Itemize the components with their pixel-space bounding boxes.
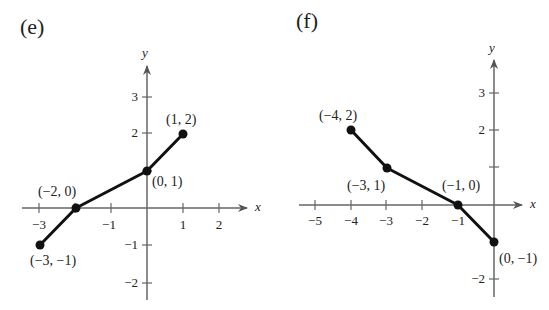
point-label: (−4, 2): [319, 108, 358, 124]
y-tick-label: −1: [124, 237, 138, 252]
x-tick-label: −2: [415, 213, 429, 228]
y-tick-label: 2: [132, 125, 139, 140]
y-axis-label: y: [487, 40, 495, 55]
y-tick-label: 3: [132, 89, 139, 104]
point-label: (0, −1): [499, 251, 538, 267]
x-axis-label: x: [529, 196, 536, 211]
y-tick-label: −2: [124, 275, 138, 290]
panel-f: (f) x y −5 −4 −3 −2 −1 3 2 −2: [296, 8, 538, 297]
point-label: (−3, 1): [347, 178, 386, 194]
y-axis-label: y: [140, 45, 148, 60]
y-tick-label: −2: [471, 271, 485, 286]
point-label: (1, 2): [166, 112, 197, 128]
point-label: (−2, 0): [38, 184, 77, 200]
y-tick-label: 2: [479, 122, 486, 137]
panel-f-title: (f): [296, 8, 318, 33]
figure: (e) x y −3 −1 1 2 3 2 −1 −2: [0, 0, 549, 310]
x-axis-label: x: [254, 199, 261, 214]
x-tick-label: −1: [451, 213, 465, 228]
x-tick-label: 2: [216, 217, 223, 232]
x-tick-label: −5: [308, 213, 322, 228]
y-tick-label: 3: [479, 85, 486, 100]
x-tick-label: −3: [379, 213, 393, 228]
x-tick-label: 1: [180, 217, 187, 232]
x-tick-label: −3: [32, 217, 46, 232]
x-tick-label: −4: [344, 213, 358, 228]
panel-e-title: (e): [20, 14, 44, 39]
point-label: (−1, 0): [442, 178, 481, 194]
x-tick-label: −1: [102, 217, 116, 232]
point-label: (0, 1): [152, 174, 183, 190]
panel-e: (e) x y −3 −1 1 2 3 2 −1 −2: [20, 14, 261, 300]
point-label: (−3, −1): [30, 253, 76, 269]
